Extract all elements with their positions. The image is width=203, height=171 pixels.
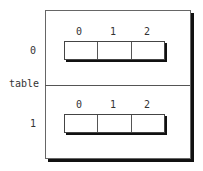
- array-cell: [132, 115, 164, 132]
- index-label: 0: [69, 99, 89, 111]
- index-label: 1: [103, 26, 123, 38]
- table-label: table: [9, 78, 39, 90]
- row-label-0: 0: [30, 45, 36, 57]
- row-divider: [45, 85, 190, 86]
- array-cell: [132, 42, 164, 59]
- index-label: 0: [69, 26, 89, 38]
- array-cell: [98, 115, 131, 132]
- array-row-0: [64, 41, 165, 60]
- index-label: 1: [103, 99, 123, 111]
- array-cell: [98, 42, 131, 59]
- index-label: 2: [137, 26, 157, 38]
- array-row-1: [64, 114, 165, 133]
- index-label: 2: [137, 99, 157, 111]
- array-cell: [65, 115, 98, 132]
- array-cell: [65, 42, 98, 59]
- row-label-1: 1: [30, 118, 36, 130]
